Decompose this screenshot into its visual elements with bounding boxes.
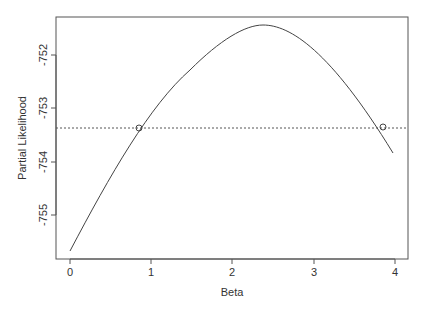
y-tick-label: -754: [37, 151, 49, 173]
likelihood-curve: [70, 25, 393, 251]
x-tick-label: 2: [229, 266, 235, 278]
y-axis: -752 -753 -754 -755 Partial Likelihood: [16, 44, 56, 226]
x-axis: 0 1 2 3 4 Beta: [67, 259, 398, 298]
x-tick-label: 4: [392, 266, 398, 278]
intersection-marker: [380, 124, 386, 130]
y-tick-label: -752: [37, 44, 49, 66]
plot-frame: [56, 17, 408, 259]
x-tick-label: 3: [311, 266, 317, 278]
y-axis-title: Partial Likelihood: [16, 96, 28, 180]
x-tick-label: 0: [67, 266, 73, 278]
x-tick-label: 1: [148, 266, 154, 278]
y-tick-label: -753: [37, 97, 49, 119]
x-axis-title: Beta: [221, 286, 245, 298]
y-tick-label: -755: [37, 204, 49, 226]
likelihood-chart: 0 1 2 3 4 Beta -752 -753 -754 -755 Parti…: [0, 0, 427, 309]
